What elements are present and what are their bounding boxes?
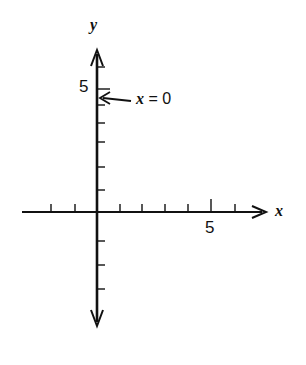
chart: y x 5 5 x = 0: [0, 0, 306, 365]
annotation-variable: x: [136, 90, 144, 107]
y-tick-label-5: 5: [79, 77, 88, 97]
x-ticks: [51, 199, 235, 212]
annotation-label: x = 0: [136, 90, 171, 108]
x-axis-label: x: [275, 202, 283, 220]
axes: [0, 0, 306, 365]
x-tick-label-5: 5: [205, 218, 214, 238]
annotation-arrow-line: [103, 98, 131, 101]
annotation-equation: = 0: [144, 90, 171, 107]
y-axis-label: y: [90, 16, 97, 34]
